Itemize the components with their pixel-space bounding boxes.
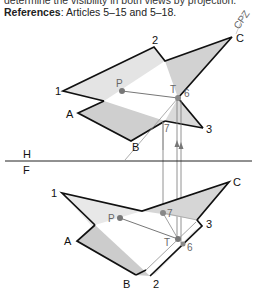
top-view: 2 C 1 A B 3 P T 6 7	[55, 32, 244, 160]
top-label-1: 1	[55, 85, 61, 97]
front-point-T	[175, 236, 181, 242]
front-label-1: 1	[51, 187, 57, 199]
top-plane-123-shade-upper	[63, 47, 165, 101]
top-label-T: T	[170, 84, 176, 95]
front-label-T: T	[164, 237, 170, 248]
front-label-2: 2	[153, 278, 159, 290]
front-label-6: 6	[187, 242, 193, 253]
top-label-P: P	[116, 78, 123, 89]
top-point-T	[175, 95, 181, 101]
projector-T-arrowhead	[175, 140, 180, 147]
top-label-A: A	[66, 108, 74, 120]
front-line-PT	[120, 218, 178, 239]
front-point-6	[181, 242, 186, 247]
top-label-B: B	[132, 141, 139, 153]
front-point-7	[160, 210, 166, 216]
front-label-A: A	[64, 235, 72, 247]
top-label-3: 3	[206, 123, 212, 135]
top-plane-shade-right	[165, 98, 203, 128]
front-label-P: P	[108, 213, 115, 224]
front-plane-abc-shade	[142, 182, 229, 220]
front-label-7: 7	[167, 208, 173, 219]
fold-label-H: H	[23, 148, 31, 160]
front-point-P	[117, 215, 123, 221]
fold-label-F: F	[23, 164, 30, 176]
front-plane-shade-lower	[77, 225, 150, 276]
projector-6-arrowhead	[179, 142, 184, 149]
top-label-C: C	[236, 32, 244, 44]
top-label-2: 2	[152, 34, 158, 46]
descriptive-geometry-diagram: CPZ 2 C 1 A B 3 P T 6 7	[0, 0, 269, 291]
front-label-3: 3	[206, 218, 212, 230]
top-label-6: 6	[184, 88, 190, 99]
top-label-7: 7	[164, 123, 170, 134]
front-label-B: B	[123, 278, 130, 290]
front-label-C: C	[233, 176, 241, 188]
front-view: 1 C A B 2 3 P 7 T 6	[51, 176, 241, 290]
